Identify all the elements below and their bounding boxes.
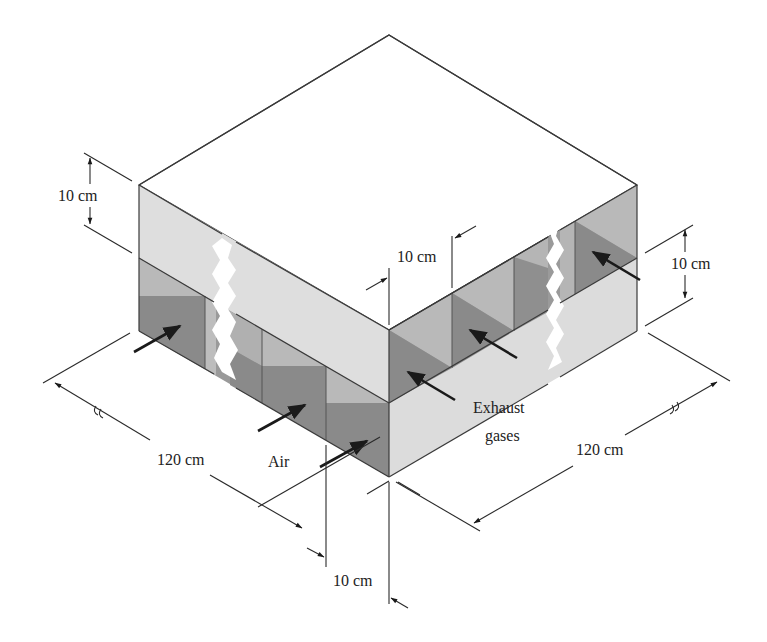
dim-left-layer-height-label: 10 cm	[58, 187, 98, 204]
heat-exchanger-diagram: 10 cm 10 cm 10 cm 120 cm 120 cm	[0, 0, 767, 642]
dim-right-layer-height: 10 cm	[645, 225, 711, 326]
dim-right-length-label: 120 cm	[576, 441, 624, 458]
exhaust-label-line2: gases	[485, 427, 520, 445]
air-label: Air	[268, 453, 290, 470]
dim-channel-width-top-label: 10 cm	[397, 248, 437, 265]
dim-left-length-label: 120 cm	[157, 451, 205, 468]
dim-left-layer-height: 10 cm	[58, 153, 132, 253]
dim-channel-width-bottom-label: 10 cm	[333, 572, 373, 589]
dim-right-layer-height-label: 10 cm	[671, 255, 711, 272]
exhaust-label-line1: Exhaust	[473, 399, 525, 416]
